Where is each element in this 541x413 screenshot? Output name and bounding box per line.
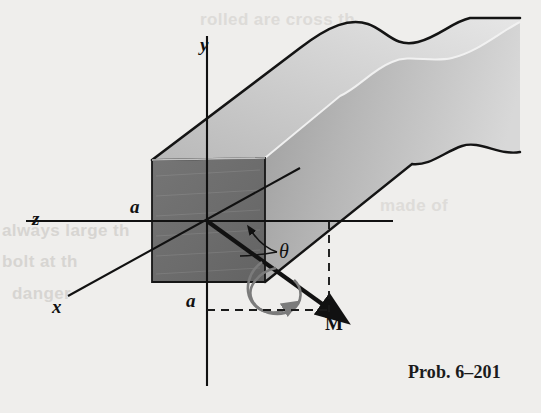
y-axis-label: y — [200, 34, 208, 56]
x-axis-label: x — [52, 296, 62, 318]
figure-container: always large th bolt at th danger rolled… — [0, 0, 541, 413]
width-dimension-label-a: a — [130, 196, 140, 218]
z-axis-label: z — [32, 208, 39, 230]
beam-diagram-svg — [0, 0, 541, 413]
theta-angle-label: θ — [279, 240, 289, 263]
height-dimension-label-a: a — [186, 290, 196, 312]
problem-caption: Prob. 6–201 — [408, 362, 501, 383]
moment-vector-label: M — [325, 313, 343, 335]
